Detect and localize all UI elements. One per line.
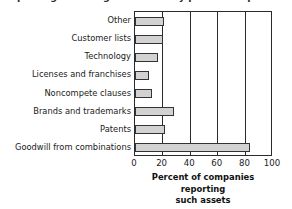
bar	[135, 71, 149, 80]
bar	[135, 17, 164, 26]
bar	[135, 107, 174, 116]
category-label: Customer lists	[72, 29, 131, 47]
x-axis-title-line: Percent of companies reporting	[134, 172, 272, 195]
x-tick-label: 60	[211, 158, 222, 168]
bar-row	[135, 30, 273, 48]
category-label: Licenses and franchises	[32, 65, 131, 83]
x-tick-label: 80	[239, 158, 250, 168]
bar-row	[135, 12, 273, 30]
bar	[135, 35, 163, 44]
x-axis-tick-labels: 020406080100	[0, 158, 292, 170]
bar-row	[135, 48, 273, 66]
category-label: Noncompete clauses	[44, 84, 131, 102]
x-tick-label: 40	[184, 158, 195, 168]
bar	[135, 143, 250, 152]
bar	[135, 125, 165, 134]
plot-area	[134, 11, 272, 156]
bar	[135, 89, 152, 98]
bar	[135, 53, 158, 62]
category-label: Goodwill from combinations	[15, 138, 131, 156]
category-label: Other	[107, 11, 131, 29]
bar-series	[135, 12, 271, 155]
bar-row	[135, 121, 273, 139]
x-tick-label: 100	[264, 158, 280, 168]
category-axis-labels: OtherCustomer listsTechnologyLicenses an…	[0, 11, 131, 156]
bar-row	[135, 66, 273, 84]
bar-row	[135, 139, 273, 157]
x-tick-label: 0	[131, 158, 136, 168]
x-axis-title-line: such assets	[134, 195, 272, 207]
category-label: Technology	[85, 47, 131, 65]
x-axis-title: Percent of companies reportingsuch asset…	[134, 172, 272, 207]
horizontal-bar-chart: OtherCustomer listsTechnologyLicenses an…	[0, 0, 292, 209]
category-label: Patents	[100, 120, 131, 138]
x-tick-label: 20	[156, 158, 167, 168]
bar-row	[135, 85, 273, 103]
bar-row	[135, 103, 273, 121]
category-label: Brands and trademarks	[33, 102, 131, 120]
